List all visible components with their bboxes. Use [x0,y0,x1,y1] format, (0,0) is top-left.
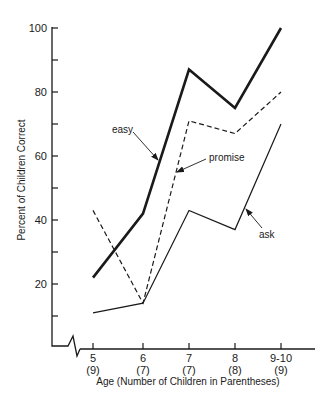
series-easy [93,28,281,278]
x-ticks: 5(9)6(7)7(7)8(8)9-10(9) [86,343,292,376]
x-tick-count: (7) [136,364,149,376]
arrow-promise [177,159,206,172]
label-promise: promise [209,152,245,163]
series-lines [93,28,281,313]
x-tick-label: 5 [90,352,96,364]
y-tick-label: 60 [35,150,47,162]
x-tick-label: 9-10 [270,352,292,364]
arrow-easy [133,132,158,160]
line-chart: 20406080100 5(9)6(7)7(7)8(8)9-10(9) Perc… [0,0,333,396]
y-axis-title: Percent of Children Correct [16,119,27,240]
x-tick-label: 6 [140,352,146,364]
x-axis: 5(9)6(7)7(7)8(8)9-10(9) [80,343,315,376]
x-tick-label: 7 [186,352,192,364]
arrow-ask [246,209,262,228]
y-tick-label: 80 [35,86,47,98]
x-tick-count: (9) [86,364,99,376]
x-axis-title: Age (Number of Children in Parentheses) [96,376,279,387]
y-axis: 20406080100 [29,22,80,356]
x-tick-count: (7) [182,364,195,376]
label-easy: easy [112,124,133,135]
y-tick-label: 20 [35,278,47,290]
x-tick-count: (9) [274,364,287,376]
y-tick-label: 100 [29,22,47,34]
series-ask [93,124,281,313]
x-tick-label: 8 [232,352,238,364]
y-ticks: 20406080100 [29,22,58,316]
y-tick-label: 40 [35,214,47,226]
label-ask: ask [259,229,276,240]
x-tick-count: (8) [228,364,241,376]
